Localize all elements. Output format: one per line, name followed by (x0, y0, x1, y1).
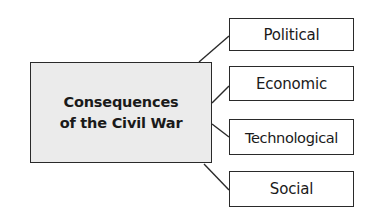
branch-box-political: Political (229, 18, 354, 51)
branch-box-social: Social (229, 171, 354, 207)
branch-box-economic: Economic (229, 66, 354, 101)
branch-label-economic: Economic (256, 75, 327, 93)
central-topic-line-2: of the Civil War (60, 113, 183, 134)
branch-box-technological: Technological (229, 119, 354, 155)
connector-political (199, 36, 229, 62)
central-topic-line-1: Consequences (64, 92, 179, 113)
central-topic-box: Consequences of the Civil War (30, 62, 212, 163)
connector-social (204, 164, 229, 190)
connector-economic (212, 86, 229, 103)
branch-label-technological: Technological (245, 129, 338, 146)
concept-map-diagram: Consequences of the Civil War Political … (0, 0, 379, 217)
branch-label-political: Political (264, 26, 320, 44)
connector-technological (212, 124, 229, 137)
branch-label-social: Social (270, 180, 313, 198)
